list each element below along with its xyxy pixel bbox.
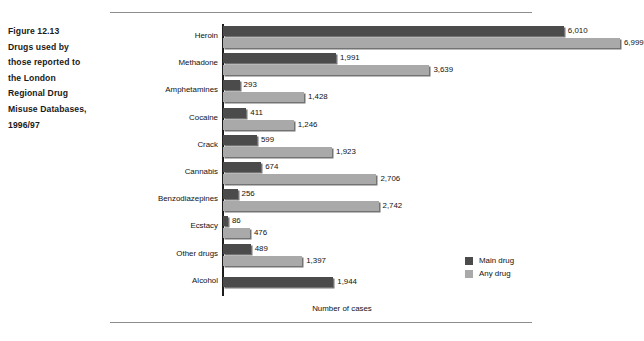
bar-any-drug: 6,999 xyxy=(223,38,620,48)
figure-bottom-rule xyxy=(110,322,532,323)
bar-any-drug: 2,706 xyxy=(223,174,376,184)
bar-value-label: 1,923 xyxy=(336,146,356,157)
figure-frame: Heroin6,0106,999Methadone1,9913,639Amphe… xyxy=(110,0,534,341)
legend-label: Main drug xyxy=(479,256,514,265)
chart-row: Amphetamines2931,428 xyxy=(110,78,534,106)
bar-value-label: 2,706 xyxy=(380,173,400,184)
category-label: Alcohol xyxy=(192,276,218,285)
bar-value-label: 1,246 xyxy=(298,119,318,130)
bar-any-drug: 476 xyxy=(223,228,250,238)
bar-value-label: 86 xyxy=(232,215,241,226)
bar-any-drug: 2,742 xyxy=(223,201,379,211)
chart-row: Benzodiazepines2562,742 xyxy=(110,187,534,215)
bar-main-drug: 1,944 xyxy=(223,277,333,287)
bar-value-label: 1,944 xyxy=(337,276,357,287)
caption-line: the London xyxy=(8,71,108,87)
bar-value-label: 1,991 xyxy=(340,52,360,63)
category-label: Cannabis xyxy=(185,167,218,176)
figure-caption: Figure 12.13Drugs used bythose reported … xyxy=(8,24,108,133)
bar-value-label: 476 xyxy=(254,227,267,238)
bar-value-label: 293 xyxy=(244,79,257,90)
bar-any-drug: 1,428 xyxy=(223,92,304,102)
category-label: Ecstacy xyxy=(190,221,218,230)
bar-value-label: 599 xyxy=(261,134,274,145)
bar-any-drug: 1,397 xyxy=(223,256,302,266)
caption-line: Figure 12.13 xyxy=(8,24,108,40)
bar-value-label: 674 xyxy=(265,161,278,172)
caption-line: Regional Drug xyxy=(8,86,108,102)
category-label: Other drugs xyxy=(176,249,218,258)
chart-row: Crack5991,923 xyxy=(110,133,534,161)
bar-value-label: 1,428 xyxy=(308,91,328,102)
bar-main-drug: 86 xyxy=(223,216,228,226)
bar-value-label: 6,999 xyxy=(624,37,644,48)
bar-value-label: 489 xyxy=(255,243,268,254)
category-label: Methadone xyxy=(179,58,218,67)
bar-main-drug: 489 xyxy=(223,244,251,254)
category-label: Amphetamines xyxy=(165,85,218,94)
bar-value-label: 3,639 xyxy=(433,64,453,75)
legend-label: Any drug xyxy=(479,269,511,278)
bar-any-drug: 1,246 xyxy=(223,120,294,130)
legend-item: Any drug xyxy=(465,267,514,280)
caption-line: Drugs used by xyxy=(8,40,108,56)
caption-line: Misuse Databases, xyxy=(8,102,108,118)
chart-row: Cocaine4111,246 xyxy=(110,106,534,134)
category-label: Heroin xyxy=(195,31,218,40)
category-label: Cocaine xyxy=(189,113,218,122)
category-label: Crack xyxy=(197,140,218,149)
legend-item: Main drug xyxy=(465,254,514,267)
caption-line: 1996/97 xyxy=(8,118,108,134)
chart-row: Ecstacy86476 xyxy=(110,214,534,242)
chart-row: Cannabis6742,706 xyxy=(110,160,534,188)
bar-value-label: 2,742 xyxy=(383,200,403,211)
chart-row: Methadone1,9913,639 xyxy=(110,51,534,79)
x-axis-title: Number of cases xyxy=(110,304,534,313)
bar-main-drug: 674 xyxy=(223,162,261,172)
legend-swatch-icon xyxy=(465,257,473,265)
bar-main-drug: 411 xyxy=(223,108,246,118)
bar-value-label: 6,010 xyxy=(568,25,588,36)
caption-line: those reported to xyxy=(8,55,108,71)
bar-main-drug: 6,010 xyxy=(223,26,564,36)
bar-main-drug: 599 xyxy=(223,135,257,145)
chart-row: Heroin6,0106,999 xyxy=(110,24,534,52)
bar-value-label: 411 xyxy=(250,107,263,118)
bar-value-label: 256 xyxy=(242,188,255,199)
bar-any-drug: 1,923 xyxy=(223,147,332,157)
bar-main-drug: 256 xyxy=(223,189,238,199)
chart-legend: Main drugAny drug xyxy=(465,254,514,280)
bar-value-label: 1,397 xyxy=(306,255,326,266)
bar-main-drug: 293 xyxy=(223,80,240,90)
bar-main-drug: 1,991 xyxy=(223,53,336,63)
bar-any-drug: 3,639 xyxy=(223,65,429,75)
figure-top-rule xyxy=(110,12,532,13)
legend-swatch-icon xyxy=(465,270,473,278)
category-label: Benzodiazepines xyxy=(158,194,218,203)
